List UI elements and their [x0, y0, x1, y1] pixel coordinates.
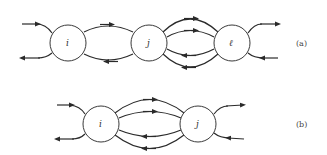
node-label-l: ℓ	[229, 38, 233, 48]
diagram-a: i j ℓ (a)	[22, 19, 307, 68]
edge-l-to-j-inner	[167, 49, 214, 56]
node-label-i: i	[66, 38, 69, 48]
edge-in-i	[36, 24, 52, 33]
edge-out-l	[248, 24, 262, 33]
panel-label-b: (b)	[296, 120, 307, 129]
edge-in-i	[70, 105, 85, 114]
edge-in-j	[228, 138, 244, 139]
edge-out-i	[72, 134, 85, 139]
edge-in-l	[248, 53, 264, 58]
edge-j-to-i-inner	[119, 130, 181, 137]
edge-j-to-l-inner	[167, 31, 214, 38]
diagram-b: i j (b)	[57, 100, 307, 149]
panel-label-a: (a)	[296, 39, 307, 48]
edge-i-to-j-inner	[119, 112, 181, 119]
node-label-i: i	[99, 119, 102, 129]
edge-out-j-arrow	[226, 105, 243, 106]
edge-j-to-i	[84, 54, 133, 60]
edge-i-to-j	[84, 26, 133, 32]
edge-out-j	[214, 106, 228, 114]
diagram-canvas: i j ℓ (a) i j (b)	[0, 0, 327, 155]
edge-in-j	[214, 133, 230, 138]
edge-out-i	[38, 53, 52, 58]
